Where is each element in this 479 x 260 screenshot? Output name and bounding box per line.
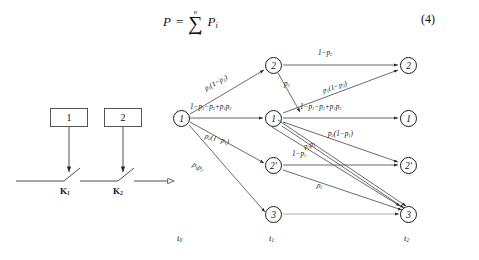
figure-vector-layer [0,0,479,260]
edge-t1-2-to-t2-1-via [278,73,300,112]
switch-blade-k1 [64,168,80,181]
edge-t1-1-to-t2-2p [283,122,398,162]
edge-t0-1-to-t1-3 [189,125,265,212]
edge-t0-1-to-t1-2p [190,122,264,163]
figure-canvas: P = n ∑ i = 1 Pi (4) 1 2 K1 K2 1 2 1 2' … [0,0,479,260]
edge-t1-1-to-t2-2 [283,70,398,113]
edge-t0-1-to-t1-2 [190,70,264,114]
edge-cross-b [272,127,400,206]
switch-blade-k2 [118,168,134,181]
edge-cross-a [278,120,406,206]
edge-t1-1-to-t2-3 [282,126,404,208]
edge-t1-2p-to-t2-3 [283,170,402,210]
